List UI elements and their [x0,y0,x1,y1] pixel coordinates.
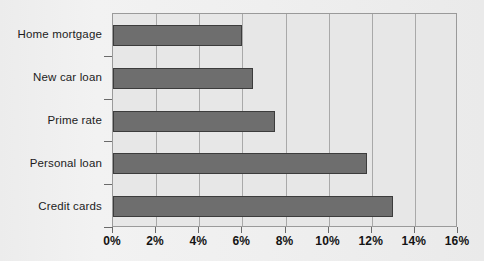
x-tick [285,227,286,233]
x-tick-label: 2% [146,234,164,248]
x-tick-label: 6% [233,234,251,248]
bar [113,153,367,174]
category-label: Personal loan [0,157,102,169]
x-tick-label: 0% [103,234,121,248]
x-tick [457,227,458,233]
bar [113,196,393,217]
plot-area [112,13,457,227]
category-label: Prime rate [0,114,102,126]
category-tick [104,184,112,185]
x-axis-tick-labels: 0%2%4%6%8%10%12%14%16% [112,234,457,252]
gridline [329,14,330,226]
x-tick [371,227,372,233]
category-label: New car loan [0,71,102,83]
category-tick [104,227,112,228]
x-tick-label: 4% [189,234,207,248]
category-axis: Home mortgageNew car loanPrime ratePerso… [0,13,106,227]
x-tick [414,227,415,233]
bar [113,25,242,46]
x-tick-label: 12% [358,234,383,248]
x-tick [241,227,242,233]
gridline [372,14,373,226]
category-label: Credit cards [0,200,102,212]
x-tick-label: 8% [276,234,294,248]
gridline [415,14,416,226]
x-tick [328,227,329,233]
gridline [286,14,287,226]
category-tick [104,141,112,142]
bar [113,68,253,89]
category-tick-marks [104,13,112,227]
category-tick [104,56,112,57]
bar [113,111,275,132]
category-label: Home mortgage [0,28,102,40]
category-tick [104,99,112,100]
x-tick [155,227,156,233]
x-tick-label: 10% [315,234,340,248]
x-tick-label: 16% [445,234,470,248]
x-axis-tick-marks [112,227,457,233]
bar-chart: Home mortgageNew car loanPrime ratePerso… [0,0,484,261]
x-tick [198,227,199,233]
x-tick [112,227,113,233]
x-tick-label: 14% [402,234,427,248]
